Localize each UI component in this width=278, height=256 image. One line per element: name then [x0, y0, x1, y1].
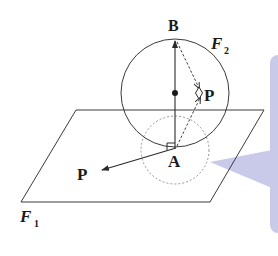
label-b: B [168, 17, 179, 34]
label-p-sphere: P [204, 86, 214, 105]
center-dot [172, 90, 178, 96]
dashed-b-to-p [177, 42, 199, 88]
label-f2: F [210, 34, 223, 53]
label-p-plane: P [77, 165, 87, 184]
bubble-body [270, 55, 278, 233]
bubble-pointer [210, 150, 272, 188]
label-a: A [168, 152, 181, 171]
plane-f1 [21, 110, 264, 202]
dashed-a-to-p [177, 98, 200, 146]
label-f2-subscript: 2 [224, 45, 229, 56]
line-a-to-p-left [102, 148, 176, 170]
label-f1-subscript: 1 [34, 218, 39, 229]
p-marker-diamond [196, 87, 203, 99]
label-f1: F [19, 207, 32, 226]
diagram-canvas: B F 2 P A P F 1 [0, 0, 278, 256]
